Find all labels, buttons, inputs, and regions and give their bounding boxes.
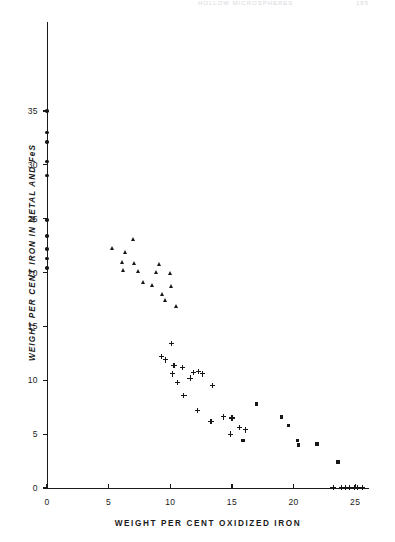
data-point-circle bbox=[45, 266, 49, 270]
figure-scatter-plot: HOLLOW MICROSPHERES 185 05101520253035 0… bbox=[0, 0, 395, 542]
data-point-square bbox=[287, 424, 290, 427]
y-tick-label-10: 10 bbox=[12, 375, 38, 385]
data-point-triangle bbox=[132, 261, 136, 265]
data-point-plus bbox=[208, 419, 213, 424]
data-point-triangle bbox=[136, 269, 140, 273]
data-point-square bbox=[280, 415, 283, 418]
y-tick-5 bbox=[43, 434, 48, 435]
data-point-plus bbox=[360, 485, 365, 490]
x-tick-5 bbox=[108, 484, 109, 489]
running-head-page-number: 185 bbox=[356, 0, 369, 6]
data-point-circle bbox=[45, 218, 49, 222]
y-tick-label-0: 0 bbox=[12, 483, 38, 493]
y-tick-30 bbox=[43, 164, 48, 165]
data-point-circle bbox=[45, 140, 49, 144]
data-point-triangle bbox=[174, 304, 178, 308]
x-tick-20 bbox=[293, 484, 294, 489]
data-point-plus bbox=[330, 485, 335, 490]
data-point-triangle bbox=[169, 284, 173, 288]
x-axis-line bbox=[47, 488, 369, 489]
data-point-plus bbox=[181, 393, 186, 398]
x-axis-title: WEIGHT PER CENT OXIDIZED IRON bbox=[47, 519, 369, 528]
data-point-square bbox=[297, 443, 300, 446]
data-point-plus bbox=[195, 408, 200, 413]
data-point-plus bbox=[200, 371, 205, 376]
data-point-plus bbox=[171, 363, 176, 368]
x-tick-10 bbox=[170, 484, 171, 489]
data-point-square bbox=[315, 442, 318, 445]
x-tick-label-20: 20 bbox=[282, 497, 306, 507]
data-point-square bbox=[296, 439, 299, 442]
data-point-triangle bbox=[123, 250, 127, 254]
data-point-triangle bbox=[141, 280, 145, 284]
y-tick-10 bbox=[43, 380, 48, 381]
y-tick-label-5: 5 bbox=[12, 429, 38, 439]
data-point-square bbox=[241, 439, 244, 442]
x-tick-15 bbox=[231, 484, 232, 489]
x-tick-label-15: 15 bbox=[220, 497, 244, 507]
x-tick-label-5: 5 bbox=[97, 497, 121, 507]
data-point-plus bbox=[163, 357, 168, 362]
y-axis-title: WEIGHT PER CENT IRON IN METAL AND FeS bbox=[28, 143, 37, 363]
data-point-plus bbox=[169, 341, 174, 346]
data-point-triangle bbox=[168, 271, 172, 275]
data-point-square bbox=[336, 460, 339, 463]
y-tick-15 bbox=[43, 326, 48, 327]
data-point-plus bbox=[180, 365, 185, 370]
data-point-triangle bbox=[163, 298, 167, 302]
running-head-title: HOLLOW MICROSPHERES bbox=[198, 0, 293, 6]
y-axis-line bbox=[47, 22, 48, 489]
running-head: HOLLOW MICROSPHERES 185 bbox=[0, 0, 395, 9]
data-point-plus bbox=[237, 425, 242, 430]
data-point-plus bbox=[221, 414, 226, 419]
data-point-triangle bbox=[150, 283, 154, 287]
data-point-plus bbox=[210, 383, 215, 388]
data-point-plus bbox=[170, 371, 175, 376]
data-point-triangle bbox=[131, 237, 135, 241]
data-point-triangle bbox=[120, 260, 124, 264]
data-point-plus bbox=[187, 375, 192, 380]
data-point-circle bbox=[45, 234, 49, 238]
x-tick-0 bbox=[46, 484, 47, 489]
data-point-triangle bbox=[160, 292, 164, 296]
x-tick-label-10: 10 bbox=[158, 497, 182, 507]
data-point-plus bbox=[229, 415, 234, 420]
data-point-triangle bbox=[154, 270, 158, 274]
data-point-triangle bbox=[110, 246, 114, 250]
y-tick-20 bbox=[43, 272, 48, 273]
data-point-plus bbox=[243, 427, 248, 432]
x-tick-label-0: 0 bbox=[35, 497, 59, 507]
data-point-circle bbox=[45, 109, 49, 113]
data-point-square bbox=[255, 402, 258, 405]
data-point-triangle bbox=[157, 262, 161, 266]
x-tick-label-25: 25 bbox=[343, 497, 367, 507]
data-point-circle bbox=[45, 247, 49, 251]
data-point-triangle bbox=[121, 268, 125, 272]
data-point-plus bbox=[228, 431, 233, 436]
data-point-plus bbox=[175, 380, 180, 385]
y-tick-label-35: 35 bbox=[12, 106, 38, 116]
